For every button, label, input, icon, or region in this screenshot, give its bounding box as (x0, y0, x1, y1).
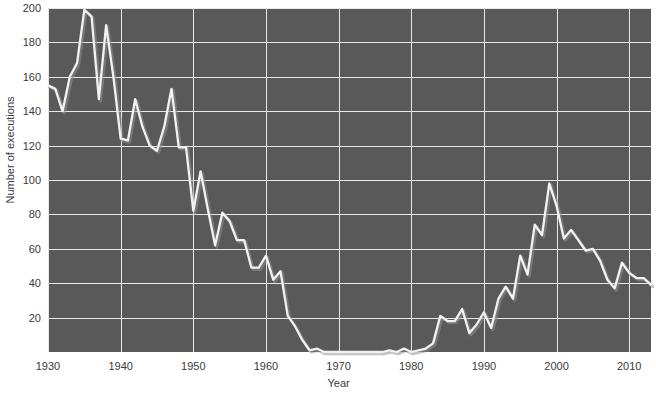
y-tick-label: 140 (23, 105, 41, 117)
y-axis-label: Number of executions (4, 96, 16, 203)
y-tick-label: 120 (23, 140, 41, 152)
x-tick-label: 1960 (254, 360, 278, 372)
x-tick-label: 1990 (472, 360, 496, 372)
x-tick-label: 2010 (617, 360, 641, 372)
x-tick-label: 1930 (36, 360, 60, 372)
y-tick-label: 160 (23, 71, 41, 83)
x-tick-label: 1970 (326, 360, 350, 372)
executions-line-chart: 2040608010012014016018020019301940195019… (0, 0, 656, 395)
y-tick-label: 200 (23, 2, 41, 14)
x-tick-label: 1950 (181, 360, 205, 372)
x-axis-label: Year (327, 377, 350, 389)
y-tick-label: 60 (29, 243, 41, 255)
y-tick-label: 20 (29, 312, 41, 324)
y-tick-label: 40 (29, 277, 41, 289)
x-tick-label: 2000 (544, 360, 568, 372)
y-tick-label: 180 (23, 36, 41, 48)
y-tick-label: 80 (29, 208, 41, 220)
x-tick-label: 1980 (399, 360, 423, 372)
chart-figure: 2040608010012014016018020019301940195019… (0, 0, 656, 395)
x-tick-label: 1940 (108, 360, 132, 372)
y-tick-label: 100 (23, 174, 41, 186)
